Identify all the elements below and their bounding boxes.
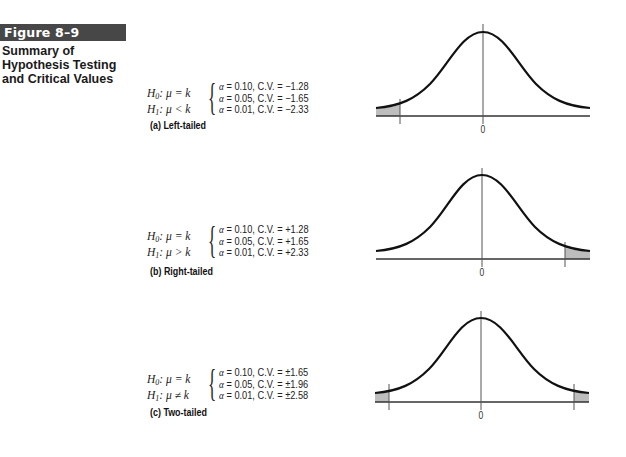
panel-right-tailed: H0: μ = k H1: μ > k { α = 0.10, C.V. = +… <box>0 143 626 286</box>
brace-icon: { <box>208 364 216 402</box>
alternative-hypothesis: H1: μ ≠ k <box>147 389 190 405</box>
axis-zero-label: 0 <box>480 124 485 135</box>
bell-curve <box>376 175 590 251</box>
bell-curve <box>375 318 589 393</box>
panel-left-tailed: H0: μ = k H1: μ < k { α = 0.10, C.V. = −… <box>0 0 626 143</box>
critical-value-row: α = 0.01, C.V. = +2.33 <box>219 247 309 259</box>
brace-icon: { <box>208 221 216 259</box>
panel-label: (b) Right-tailed <box>150 265 213 277</box>
hypotheses: H0: μ = k H1: μ < k <box>147 87 190 119</box>
critical-values: α = 0.10, C.V. = ±1.65 α = 0.05, C.V. = … <box>219 367 308 402</box>
normal-curve-left-tailed <box>370 16 595 136</box>
null-hypothesis: H0: μ = k <box>147 87 190 103</box>
axis-zero-label: 0 <box>478 410 483 421</box>
critical-values: α = 0.10, C.V. = −1.28 α = 0.05, C.V. = … <box>219 81 309 116</box>
alternative-hypothesis: H1: μ < k <box>147 103 190 119</box>
null-hypothesis: H0: μ = k <box>147 230 190 246</box>
critical-value-row: α = 0.01, C.V. = −2.33 <box>219 104 309 116</box>
hypotheses: H0: μ = k H1: μ ≠ k <box>147 373 190 405</box>
critical-values: α = 0.10, C.V. = +1.28 α = 0.05, C.V. = … <box>219 224 309 259</box>
axis-zero-label: 0 <box>479 267 484 278</box>
alternative-hypothesis: H1: μ > k <box>147 246 190 262</box>
null-hypothesis: H0: μ = k <box>147 373 190 389</box>
normal-curve-right-tailed <box>370 159 595 279</box>
critical-value-row: α = 0.01, C.V. = ±2.58 <box>219 390 308 402</box>
panel-label: (a) Left-tailed <box>150 119 206 131</box>
hypotheses: H0: μ = k H1: μ > k <box>147 230 190 262</box>
panel-label: (c) Two-tailed <box>150 406 207 418</box>
panel-two-tailed: H0: μ = k H1: μ ≠ k { α = 0.10, C.V. = ±… <box>0 286 626 429</box>
normal-curve-two-tailed <box>370 302 595 422</box>
brace-icon: { <box>208 78 216 116</box>
